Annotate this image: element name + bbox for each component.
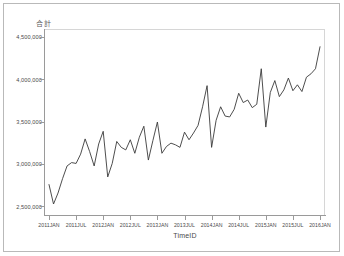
series-polyline xyxy=(49,47,320,204)
graph-area: 合計 2,500,0003,000,0003,500,0004,000,0004… xyxy=(10,8,334,246)
x-axis-title: TimeID xyxy=(44,232,326,239)
chart-screenshot: 合計 2,500,0003,000,0003,500,0004,000,0004… xyxy=(0,0,344,256)
series-line-chart xyxy=(10,8,334,246)
